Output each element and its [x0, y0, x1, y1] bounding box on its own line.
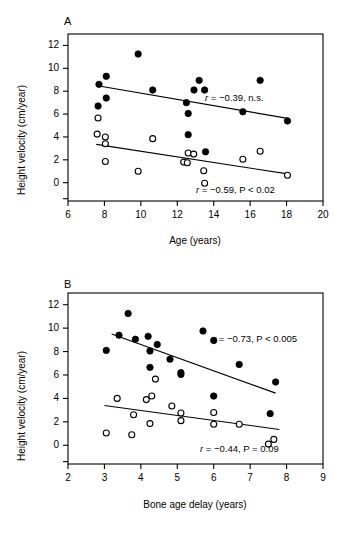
data-point-open — [147, 421, 153, 427]
data-point-open — [284, 172, 290, 178]
data-point-filled — [147, 348, 153, 354]
data-point-open — [178, 410, 184, 416]
data-point-filled — [236, 361, 242, 367]
data-point-filled — [145, 333, 151, 339]
annotation-marker-filled — [191, 87, 197, 93]
annotation-filled-circles: r = −0.39, n.s. — [205, 92, 264, 103]
data-point-filled — [135, 51, 141, 57]
plot-frame — [68, 293, 323, 464]
data-point-filled — [150, 87, 156, 93]
data-point-filled — [103, 347, 109, 353]
x-tick-label: 18 — [267, 209, 307, 220]
data-point-filled — [284, 118, 290, 124]
x-tick-label: 14 — [194, 209, 234, 220]
y-tick-label: 0 — [29, 177, 59, 188]
y-tick-label: 2 — [29, 154, 59, 165]
x-tick-label: 7 — [230, 472, 270, 483]
data-point-filled — [211, 393, 217, 399]
data-point-open — [150, 136, 156, 142]
data-point-filled — [167, 356, 173, 362]
data-point-filled — [267, 410, 273, 416]
y-tick-label: 12 — [29, 39, 59, 50]
data-point-open — [102, 141, 108, 147]
panel-b: B Height velocity (cm/year) Bone age del… — [0, 271, 344, 541]
data-point-open — [94, 131, 100, 137]
data-point-open — [103, 430, 109, 436]
y-tick-label: 6 — [29, 108, 59, 119]
data-point-open — [271, 436, 277, 442]
data-point-filled — [125, 310, 131, 316]
data-point-filled — [202, 149, 208, 155]
data-point-open — [152, 376, 158, 382]
y-tick-label: 4 — [29, 392, 59, 403]
trendline-open-circles — [104, 405, 279, 429]
data-point-filled — [272, 379, 278, 385]
annotation-value: = −0.59, P < 0.02 — [199, 184, 275, 195]
data-point-open — [240, 156, 246, 162]
data-point-open — [102, 159, 108, 165]
x-tick-label: 6 — [194, 472, 234, 483]
data-point-filled — [178, 371, 184, 377]
data-point-open — [211, 421, 217, 427]
data-point-filled — [103, 95, 109, 101]
x-tick-label: 8 — [267, 472, 307, 483]
panel-a: A Height velocity (cm/year) Age (years) … — [0, 0, 344, 270]
y-tick-label: 8 — [29, 85, 59, 96]
x-tick-label: 5 — [157, 472, 197, 483]
data-point-filled — [132, 336, 138, 342]
data-point-open — [135, 168, 141, 174]
data-point-filled — [116, 332, 122, 338]
x-tick-label: 9 — [303, 472, 343, 483]
data-point-open — [95, 115, 101, 121]
annotation-value: = −0.44, P = 0.09 — [203, 443, 279, 454]
data-point-open — [191, 151, 197, 157]
data-point-open — [201, 168, 207, 174]
annotation-open-circles: r = −0.44, P = 0.09 — [200, 443, 279, 454]
data-point-filled — [96, 81, 102, 87]
data-point-filled — [185, 131, 191, 137]
annotation-filled-circles: r = −0.73, P < 0.005 — [213, 333, 297, 344]
data-point-filled — [154, 341, 160, 347]
panel-b-plot-area — [0, 271, 344, 541]
data-point-open — [149, 393, 155, 399]
x-tick-label: 8 — [84, 209, 124, 220]
data-point-open — [257, 148, 263, 154]
y-tick-label: 0 — [29, 439, 59, 450]
x-tick-label: 3 — [84, 472, 124, 483]
data-point-filled — [147, 364, 153, 370]
data-point-open — [143, 397, 149, 403]
scatter-figure: A Height velocity (cm/year) Age (years) … — [0, 0, 344, 541]
data-point-filled — [240, 109, 246, 115]
annotation-value: = −0.39, n.s. — [208, 92, 263, 103]
x-tick-label: 16 — [230, 209, 270, 220]
x-tick-label: 4 — [121, 472, 161, 483]
x-tick-label: 12 — [157, 209, 197, 220]
y-tick-label: 12 — [29, 299, 59, 310]
y-tick-label: 6 — [29, 369, 59, 380]
annotation-marker-filled — [200, 328, 206, 334]
annotation-open-circles: r = −0.59, P < 0.02 — [196, 184, 275, 195]
data-point-open — [236, 421, 242, 427]
x-tick-label: 6 — [48, 209, 88, 220]
data-point-open — [114, 395, 120, 401]
y-tick-label: 4 — [29, 131, 59, 142]
x-tick-label: 2 — [48, 472, 88, 483]
data-point-open — [129, 432, 135, 438]
x-tick-label: 20 — [303, 209, 343, 220]
data-point-filled — [185, 110, 191, 116]
data-point-filled — [103, 73, 109, 79]
data-point-open — [169, 403, 175, 409]
data-point-filled — [95, 103, 101, 109]
x-tick-label: 10 — [121, 209, 161, 220]
data-point-open — [131, 412, 137, 418]
y-tick-label: 8 — [29, 346, 59, 357]
annotation-value: = −0.73, P < 0.005 — [216, 333, 297, 344]
y-tick-label: 2 — [29, 416, 59, 427]
data-point-open — [184, 160, 190, 166]
y-tick-label: 10 — [29, 322, 59, 333]
data-point-open — [102, 134, 108, 140]
y-tick-label: 10 — [29, 62, 59, 73]
data-point-open — [178, 418, 184, 424]
data-point-open — [211, 409, 217, 415]
data-point-filled — [257, 77, 263, 83]
